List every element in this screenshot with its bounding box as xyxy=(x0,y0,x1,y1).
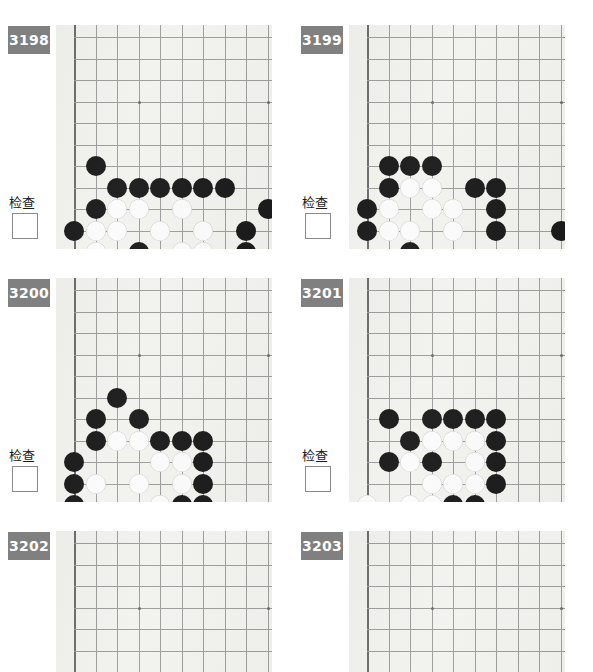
black-stone[interactable] xyxy=(193,495,213,502)
black-stone[interactable] xyxy=(357,199,377,219)
black-stone[interactable] xyxy=(129,178,149,198)
white-stone[interactable] xyxy=(379,199,399,219)
black-stone[interactable] xyxy=(64,452,84,472)
black-stone[interactable] xyxy=(150,431,170,451)
white-stone[interactable] xyxy=(86,221,106,241)
black-stone[interactable] xyxy=(400,242,420,249)
white-stone[interactable] xyxy=(465,474,485,494)
white-stone[interactable] xyxy=(150,452,170,472)
black-stone[interactable] xyxy=(465,409,485,429)
white-stone[interactable] xyxy=(193,221,213,241)
black-stone[interactable] xyxy=(422,452,442,472)
go-board[interactable] xyxy=(56,25,272,249)
black-stone[interactable] xyxy=(486,409,506,429)
white-stone[interactable] xyxy=(400,221,420,241)
white-stone[interactable] xyxy=(172,474,192,494)
white-stone[interactable] xyxy=(107,431,127,451)
black-stone[interactable] xyxy=(107,388,127,408)
white-stone[interactable] xyxy=(443,199,463,219)
black-stone[interactable] xyxy=(443,495,463,502)
black-stone[interactable] xyxy=(400,156,420,176)
go-board[interactable] xyxy=(349,531,565,672)
white-stone[interactable] xyxy=(172,452,192,472)
white-stone[interactable] xyxy=(129,431,149,451)
check-checkbox[interactable] xyxy=(12,213,38,239)
black-stone[interactable] xyxy=(551,221,565,241)
white-stone[interactable] xyxy=(107,221,127,241)
black-stone[interactable] xyxy=(64,221,84,241)
white-stone[interactable] xyxy=(193,242,213,249)
black-stone[interactable] xyxy=(486,178,506,198)
white-stone[interactable] xyxy=(443,221,463,241)
black-stone[interactable] xyxy=(150,178,170,198)
black-stone[interactable] xyxy=(465,178,485,198)
black-stone[interactable] xyxy=(486,431,506,451)
black-stone[interactable] xyxy=(64,495,84,502)
black-stone[interactable] xyxy=(486,221,506,241)
black-stone[interactable] xyxy=(486,452,506,472)
black-stone[interactable] xyxy=(129,409,149,429)
black-stone[interactable] xyxy=(172,178,192,198)
black-stone[interactable] xyxy=(236,242,256,249)
black-stone[interactable] xyxy=(357,221,377,241)
white-stone[interactable] xyxy=(422,495,442,502)
white-stone[interactable] xyxy=(150,495,170,502)
black-stone[interactable] xyxy=(86,199,106,219)
black-stone[interactable] xyxy=(86,431,106,451)
black-stone[interactable] xyxy=(64,474,84,494)
go-board[interactable] xyxy=(56,278,272,502)
black-stone[interactable] xyxy=(236,221,256,241)
white-stone[interactable] xyxy=(86,242,106,249)
white-stone[interactable] xyxy=(172,242,192,249)
white-stone[interactable] xyxy=(422,431,442,451)
white-stone[interactable] xyxy=(400,495,420,502)
white-stone[interactable] xyxy=(357,495,377,502)
black-stone[interactable] xyxy=(379,156,399,176)
black-stone[interactable] xyxy=(422,156,442,176)
black-stone[interactable] xyxy=(193,431,213,451)
black-stone[interactable] xyxy=(193,452,213,472)
white-stone[interactable] xyxy=(150,221,170,241)
black-stone[interactable] xyxy=(215,178,235,198)
white-stone[interactable] xyxy=(400,178,420,198)
go-board[interactable] xyxy=(349,278,565,502)
white-stone[interactable] xyxy=(400,452,420,472)
black-stone[interactable] xyxy=(107,178,127,198)
black-stone[interactable] xyxy=(193,474,213,494)
black-stone[interactable] xyxy=(486,474,506,494)
black-stone[interactable] xyxy=(379,409,399,429)
black-stone[interactable] xyxy=(258,199,272,219)
black-stone[interactable] xyxy=(422,409,442,429)
check-checkbox[interactable] xyxy=(305,466,331,492)
black-stone[interactable] xyxy=(172,495,192,502)
go-board[interactable] xyxy=(349,25,565,249)
check-checkbox[interactable] xyxy=(12,466,38,492)
black-stone[interactable] xyxy=(129,242,149,249)
black-stone[interactable] xyxy=(379,452,399,472)
black-stone[interactable] xyxy=(465,495,485,502)
black-stone[interactable] xyxy=(486,199,506,219)
white-stone[interactable] xyxy=(443,431,463,451)
white-stone[interactable] xyxy=(129,199,149,219)
white-stone[interactable] xyxy=(465,452,485,472)
black-stone[interactable] xyxy=(443,409,463,429)
white-stone[interactable] xyxy=(422,474,442,494)
white-stone[interactable] xyxy=(107,199,127,219)
grid-line-horizontal xyxy=(367,80,565,81)
black-stone[interactable] xyxy=(86,156,106,176)
white-stone[interactable] xyxy=(172,199,192,219)
white-stone[interactable] xyxy=(443,474,463,494)
black-stone[interactable] xyxy=(172,431,192,451)
black-stone[interactable] xyxy=(379,178,399,198)
white-stone[interactable] xyxy=(465,431,485,451)
white-stone[interactable] xyxy=(379,221,399,241)
white-stone[interactable] xyxy=(86,474,106,494)
white-stone[interactable] xyxy=(129,474,149,494)
white-stone[interactable] xyxy=(422,178,442,198)
black-stone[interactable] xyxy=(86,409,106,429)
go-board[interactable] xyxy=(56,531,272,672)
check-checkbox[interactable] xyxy=(305,213,331,239)
white-stone[interactable] xyxy=(422,199,442,219)
black-stone[interactable] xyxy=(400,431,420,451)
black-stone[interactable] xyxy=(193,178,213,198)
